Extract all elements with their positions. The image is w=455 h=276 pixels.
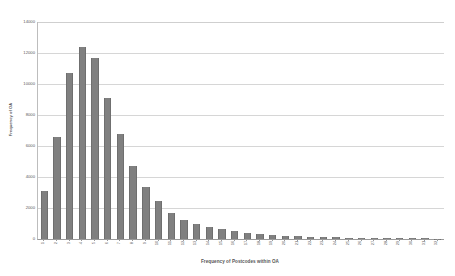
x-axis-tick-label-text: 28 <box>384 241 388 246</box>
x-axis-tick-label-text: 1 <box>41 242 45 244</box>
bar-chart-figure: Frequency of OA 020004000600080001000012… <box>0 0 455 276</box>
bar <box>218 229 225 239</box>
x-axis-tick-label-text: 17 <box>244 241 248 246</box>
x-axis-tick-label-text: 3 <box>67 242 71 244</box>
x-axis-tick-label-text: 5 <box>92 242 96 244</box>
bar <box>142 187 149 239</box>
x-axis-tick-label-text: 2 <box>54 242 58 244</box>
y-axis-tick-label: 4000 <box>26 175 35 179</box>
x-axis-tick-label-text: 11 <box>168 241 172 245</box>
bar <box>168 213 175 239</box>
x-axis-tick-label-text: 16 <box>232 241 236 246</box>
x-axis-tick-label-text: 10 <box>155 241 159 246</box>
x-axis-tick-label-text: 26 <box>358 241 362 246</box>
bar <box>117 134 124 239</box>
x-axis-tick-label-text: 29 <box>397 241 401 246</box>
x-axis-tick-label-text: 25 <box>346 241 350 246</box>
y-axis-tick-label: 0 <box>33 237 35 241</box>
x-axis-tick-label-text: 18 <box>257 241 261 246</box>
x-axis-title: Frequency of Postcodes within OA <box>37 259 443 264</box>
bar <box>66 73 73 239</box>
x-axis-tick-label-text: 30 <box>409 241 413 246</box>
x-axis-tick-label-text: 8 <box>130 242 134 244</box>
x-axis-tick-label-text: 27 <box>371 241 375 246</box>
x-axis-tick-label-text: 24 <box>333 241 337 246</box>
x-axis-tick-label-text: 19 <box>270 241 274 246</box>
y-axis-tick-label: 12000 <box>23 51 35 55</box>
x-axis-tick-label: 32 <box>430 241 444 255</box>
x-axis-tick-label-text: 31 <box>422 241 426 246</box>
x-axis-tick-label-text: 4 <box>79 242 83 244</box>
y-axis-tick-label: 2000 <box>26 206 35 210</box>
y-axis-tick-label: 14000 <box>23 20 35 24</box>
x-axis-tick-label-text: 21 <box>295 241 299 246</box>
x-axis-tick-label-text: 9 <box>143 242 147 244</box>
x-axis-tick-label-text: 15 <box>219 241 223 246</box>
bar <box>206 227 213 239</box>
plot-area <box>37 22 444 240</box>
y-axis-tick-label: 6000 <box>26 144 35 148</box>
bar <box>231 231 238 239</box>
y-axis-title-label: Frequency of OA <box>9 103 14 137</box>
bar <box>91 58 98 239</box>
bar <box>41 191 48 239</box>
bar <box>193 224 200 240</box>
y-axis-tick-labels: 02000400060008000100001200014000 <box>14 0 36 276</box>
x-axis-tick-label-text: 12 <box>181 241 185 246</box>
bar <box>180 220 187 239</box>
y-axis-tick-label: 10000 <box>23 82 35 86</box>
bar <box>104 98 111 239</box>
bar <box>129 166 136 239</box>
x-axis-tick-label-text: 32 <box>435 241 439 246</box>
x-axis-tick-label-text: 20 <box>282 241 286 246</box>
bar <box>53 137 60 239</box>
bar <box>155 201 162 239</box>
y-axis-tick-label: 8000 <box>26 113 35 117</box>
x-axis-tick-label-text: 23 <box>320 241 324 246</box>
x-axis-tick-label-text: 7 <box>117 242 121 244</box>
bars-layer <box>38 22 444 239</box>
x-axis-tick-label-text: 22 <box>308 241 312 246</box>
x-axis-tick-label-text: 14 <box>206 241 210 246</box>
x-axis-tick-label-text: 6 <box>105 242 109 244</box>
x-axis-tick-label-text: 13 <box>194 241 198 246</box>
x-axis-tick-labels: 1234567891011121314151617181920212223242… <box>37 241 443 257</box>
bar <box>79 47 86 239</box>
